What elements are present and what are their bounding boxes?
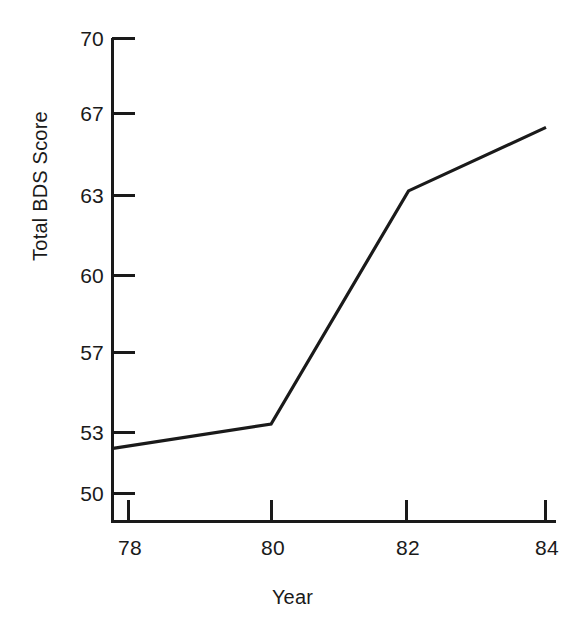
x-tick-label-78: 78 [118, 537, 142, 558]
x-tick-label-82: 82 [396, 537, 420, 558]
x-tick-label-84: 84 [535, 537, 559, 558]
x-axis-title: Year [0, 587, 585, 607]
x-tick-label-80: 80 [261, 537, 285, 558]
y-axis-title: Total BDS Score [30, 86, 50, 286]
x-tick-labels: 78 80 82 84 [0, 0, 585, 626]
line-chart: 70 67 63 60 57 53 50 78 80 82 84 Total B… [0, 0, 585, 626]
